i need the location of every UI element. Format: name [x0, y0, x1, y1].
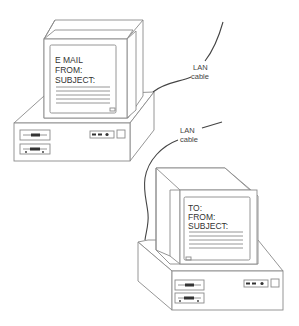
lan-cable-bottom-out	[202, 122, 222, 128]
unit-front	[14, 123, 130, 161]
screen-line-subject: SUBJECT:	[188, 221, 228, 231]
monitor-top	[44, 30, 133, 39]
monitor-side	[170, 190, 180, 264]
network-diagram: E MAIL FROM: SUBJECT: LAN cable LAN cabl…	[0, 0, 299, 326]
unit-front	[172, 271, 283, 310]
screen-line-subject: SUBJECT:	[55, 75, 95, 85]
lan-label-bottom-line2: cable	[180, 135, 198, 144]
screen-line-email: E MAIL	[55, 55, 83, 65]
monitor-side	[127, 31, 136, 118]
lan-label-bottom-line1: LAN	[180, 126, 195, 135]
lan-cable-top-out	[205, 22, 223, 61]
lan-label-top-line2: cable	[191, 72, 209, 81]
drive-slot-icon	[185, 284, 194, 287]
lan-cable-top-in	[153, 77, 191, 92]
drive-slot-icon	[30, 148, 40, 151]
screen-line-from: FROM:	[55, 65, 82, 75]
lan-label-top-line1: LAN	[193, 63, 208, 72]
computer-sender: E MAIL FROM: SUBJECT:	[14, 20, 154, 161]
drive-slot-icon	[184, 297, 194, 300]
monitor-receiver: TO: FROM: SUBJECT:	[156, 168, 258, 264]
monitor-sender: E MAIL FROM: SUBJECT:	[44, 20, 143, 118]
computer-receiver: TO: FROM: SUBJECT:	[138, 168, 283, 310]
drive-slot-icon	[31, 134, 40, 137]
